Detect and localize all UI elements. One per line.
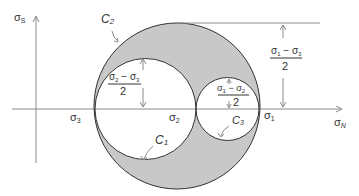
- svg-text:2: 2: [233, 96, 239, 108]
- sigma3-label: σ3: [70, 111, 81, 124]
- horizontal-axis-label: σN: [334, 116, 347, 129]
- svg-text:σ1 − σ2: σ1 − σ2: [217, 83, 246, 94]
- vertical-axis-label: σS: [14, 11, 26, 24]
- svg-text:σ2 − σ3: σ2 − σ3: [109, 71, 140, 83]
- svg-text:2: 2: [282, 60, 288, 72]
- sigma1-label: σ1: [264, 109, 275, 122]
- radius-c2-fraction: σ1 − σ3 2: [270, 45, 302, 72]
- mohr-circle-diagram: σS σN σ3 σ2 σ1 C2 C1 C3 σ2 − σ3 2 σ1 − σ…: [0, 0, 359, 196]
- c2-label: C2: [101, 12, 115, 26]
- svg-text:2: 2: [120, 85, 126, 97]
- svg-text:σ1 − σ3: σ1 − σ3: [271, 45, 302, 57]
- vertical-axis: [33, 16, 39, 163]
- c2-leader-arrow: [112, 31, 118, 42]
